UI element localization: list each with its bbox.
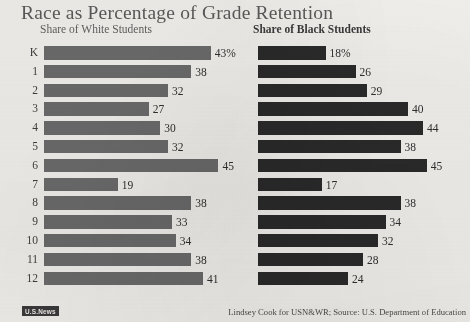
bar-track: 41 [44,272,230,286]
bar-row: 645 [0,157,232,176]
bar-track: 32 [44,84,230,98]
grade-label: 8 [0,195,38,209]
bar-row: 40 [232,100,470,119]
bar-track: 32 [44,140,230,154]
bar-track: 18% [258,46,468,60]
bar-value-label: 17 [326,178,338,192]
bar-value-label: 38 [195,196,207,210]
bar [44,140,168,154]
grade-label: 4 [0,120,38,134]
bar-row: 17 [232,176,470,195]
bar [44,215,172,229]
bar-value-label: 32 [382,234,394,248]
bar [44,234,176,248]
bar-row: 430 [0,119,232,138]
bar-row: 26 [232,63,470,82]
bar-track: 26 [258,65,468,79]
bar-track: 33 [44,215,230,229]
bar-track: 38 [44,196,230,210]
bar-row: 38 [232,138,470,157]
source-credit: Lindsey Cook for USN&WR; Source: U.S. De… [228,307,466,317]
bar-track: 27 [44,102,230,116]
bar-value-label: 38 [195,253,207,267]
bar-value-label: 24 [352,272,364,286]
bar-row: 38 [232,194,470,213]
bar-value-label: 29 [371,84,383,98]
bar-row: 1138 [0,251,232,270]
bar-value-label: 19 [122,178,134,192]
bar-track: 17 [258,178,468,192]
bar [258,215,386,229]
grade-label: 9 [0,214,38,228]
bar-value-label: 30 [164,121,176,135]
bar [44,102,149,116]
grade-label: 6 [0,158,38,172]
bar [258,46,326,60]
bar-track: 38 [44,253,230,267]
bar-value-label: 45 [431,159,443,173]
bar [258,253,363,267]
bar-track: 30 [44,121,230,135]
grade-label: 3 [0,101,38,115]
bar-row: 719 [0,176,232,195]
bar-track: 38 [258,140,468,154]
grade-label: 1 [0,64,38,78]
bar-row: 44 [232,119,470,138]
bar-row: 32 [232,232,470,251]
grade-label: 5 [0,139,38,153]
bar [258,65,356,79]
bar [44,196,191,210]
bar [258,140,401,154]
bar [44,84,168,98]
bar-track: 28 [258,253,468,267]
bar-row: 45 [232,157,470,176]
grade-label: 7 [0,177,38,191]
bar-value-label: 28 [367,253,379,267]
bar-value-label: 38 [405,196,417,210]
bar-track: 38 [44,65,230,79]
bar-row: 24 [232,270,470,289]
bar [258,121,423,135]
bar-row: 327 [0,100,232,119]
bar-track: 19 [44,178,230,192]
bar-row: 29 [232,82,470,101]
bar [44,159,218,173]
bar-value-label: 26 [360,65,372,79]
bar-value-label: 33 [176,215,188,229]
panel-heading-white-students: Share of White Students [40,23,152,35]
bar [258,178,322,192]
bar-track: 32 [258,234,468,248]
bar-value-label: 34 [390,215,402,229]
bar-track: 45 [258,159,468,173]
bar-row: 138 [0,63,232,82]
bar-track: 45 [44,159,230,173]
bar-value-label: 40 [412,102,424,116]
bar-row: 18% [232,44,470,63]
bar-row: 34 [232,213,470,232]
bar-row: 28 [232,251,470,270]
usnews-logo: U.S.News [22,306,59,316]
bar [44,121,160,135]
bar-track: 38 [258,196,468,210]
bar [258,84,367,98]
chart-container: Race as Percentage of Grade Retention Sh… [0,0,470,322]
bar-value-label: 38 [405,140,417,154]
grade-label: 11 [0,252,38,266]
bar-track: 29 [258,84,468,98]
grade-label: 10 [0,233,38,247]
bar-row: 1241 [0,270,232,289]
bar [258,234,378,248]
bar-row: K43% [0,44,232,63]
bar-row: 933 [0,213,232,232]
bar-row: 838 [0,194,232,213]
bar-value-label: 44 [427,121,439,135]
bar-value-label: 18% [330,46,351,60]
bar [44,253,191,267]
grade-label: 2 [0,83,38,97]
bar [44,46,211,60]
bar-value-label: 32 [172,140,184,154]
bar-value-label: 32 [172,84,184,98]
bar-track: 24 [258,272,468,286]
bar-value-label: 27 [153,102,165,116]
bar [44,65,191,79]
